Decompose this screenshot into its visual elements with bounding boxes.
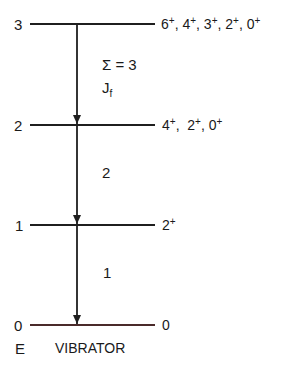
level-2-spins: 4+, 2+, 0+ bbox=[162, 117, 222, 132]
arrowhead-3-to-2 bbox=[73, 115, 81, 124]
level-1-line bbox=[30, 224, 155, 226]
level-0-line bbox=[30, 324, 155, 326]
arrowhead-2-to-1 bbox=[73, 215, 81, 224]
arrowhead-1-to-0 bbox=[73, 315, 81, 324]
transition-3-2-jf-label: Jf bbox=[102, 80, 112, 99]
model-label: VIBRATOR bbox=[55, 341, 125, 355]
level-3-spins: 6+, 4+, 3+, 2+, 0+ bbox=[161, 16, 260, 31]
level-0-spins: 0 bbox=[162, 318, 170, 332]
level-1-spins: 2+ bbox=[162, 217, 176, 232]
energy-axis-label: E bbox=[15, 341, 25, 356]
transition-2-1-label: 2 bbox=[102, 165, 110, 180]
transition-1-0-label: 1 bbox=[103, 265, 111, 280]
level-3-line bbox=[30, 23, 155, 25]
level-0-energy: 0 bbox=[14, 318, 22, 333]
transition-arrows bbox=[0, 0, 297, 365]
level-3-energy: 3 bbox=[14, 17, 22, 32]
level-2-line bbox=[30, 124, 155, 126]
transition-3-2-sum-label: Σ = 3 bbox=[102, 57, 137, 72]
level-2-energy: 2 bbox=[14, 118, 22, 133]
level-1-energy: 1 bbox=[15, 218, 23, 233]
